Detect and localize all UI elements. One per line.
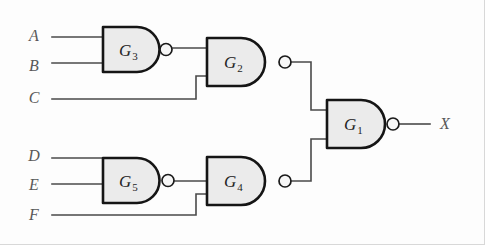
wire-g2-to-g1 xyxy=(292,62,327,110)
gate-g2-inversion-bubble xyxy=(279,56,291,68)
gate-g3-inversion-bubble xyxy=(160,44,172,56)
output-label-layer: X xyxy=(439,115,451,132)
gate-g5-inversion-bubble xyxy=(162,175,174,187)
input-label-f: F xyxy=(28,206,39,223)
input-label-b: B xyxy=(29,57,39,74)
gate-g1-inversion-bubble xyxy=(387,118,399,130)
wire-g4-to-g1 xyxy=(292,139,327,181)
input-label-layer: A B C D E F xyxy=(27,27,40,223)
input-label-c: C xyxy=(29,89,40,106)
input-label-d: D xyxy=(27,147,40,164)
input-label-a: A xyxy=(28,27,39,44)
gate-g3: G3 xyxy=(103,27,172,72)
wire-c-to-g2 xyxy=(52,76,207,99)
circuit-canvas: G3 G2 G1 G5 xyxy=(0,0,485,245)
gate-g2: G2 xyxy=(207,38,291,86)
gate-g5: G5 xyxy=(103,158,174,203)
gate-g4: G4 xyxy=(207,157,291,205)
logic-circuit-figure: G3 G2 G1 G5 xyxy=(0,0,485,245)
gate-g1: G1 xyxy=(327,100,399,148)
gate-g4-inversion-bubble xyxy=(279,175,291,187)
input-label-e: E xyxy=(28,176,39,193)
output-label-x: X xyxy=(439,115,451,132)
